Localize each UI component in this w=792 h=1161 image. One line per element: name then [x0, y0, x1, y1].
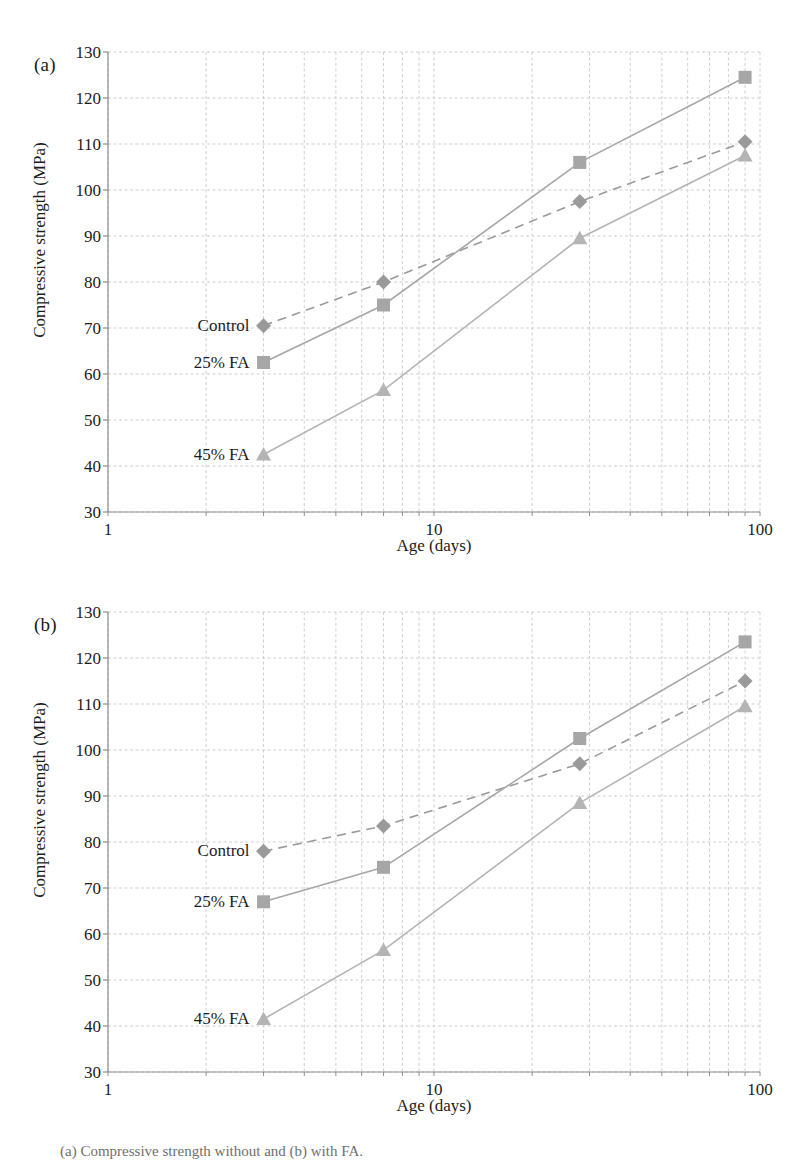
data-point-marker-square — [573, 732, 586, 745]
data-point-marker-triangle — [376, 383, 391, 397]
data-point-marker-diamond — [376, 275, 391, 290]
y-axis-tick-label: 110 — [76, 696, 101, 713]
y-axis-tick-label: 100 — [76, 742, 102, 759]
y-axis-tick-label: 70 — [84, 880, 101, 897]
y-axis-tick-label: 100 — [76, 182, 102, 199]
y-axis-tick-label: 80 — [84, 274, 101, 291]
data-point-marker-square — [573, 156, 586, 169]
plot-area-b: 30405060708090100110120130110100Control2… — [108, 612, 760, 1072]
y-axis-tick-label: 130 — [76, 44, 102, 61]
y-axis-tick-label: 40 — [84, 458, 101, 475]
y-axis-tick-label: 30 — [84, 1064, 101, 1081]
data-point-marker-square — [739, 635, 752, 648]
data-point-marker-triangle — [256, 1012, 271, 1026]
data-point-marker-diamond — [376, 818, 391, 833]
data-point-marker-square — [377, 299, 390, 312]
data-point-marker-triangle — [376, 943, 391, 957]
data-point-marker-square — [257, 356, 270, 369]
y-axis-tick-label: 90 — [84, 228, 101, 245]
series-annotation-label: 45% FA — [194, 1009, 250, 1029]
data-point-marker-triangle — [738, 699, 753, 713]
data-point-marker-diamond — [256, 318, 271, 333]
data-point-marker-diamond — [572, 194, 587, 209]
y-axis-tick-label: 60 — [84, 926, 101, 943]
series-annotation-label: 45% FA — [194, 445, 250, 465]
data-point-marker-square — [377, 861, 390, 874]
y-axis-label-a: Compressive strength (MPa) — [30, 90, 50, 390]
panel-tag-a: (a) — [34, 54, 56, 76]
y-axis-tick-label: 80 — [84, 834, 101, 851]
data-point-marker-diamond — [572, 756, 587, 771]
y-axis-tick-label: 60 — [84, 366, 101, 383]
x-axis-label-a: Age (days) — [108, 536, 760, 556]
y-axis-tick-label: 120 — [76, 650, 102, 667]
chart-svg-a — [108, 52, 760, 512]
y-axis-tick-label: 40 — [84, 1018, 101, 1035]
y-axis-tick-label: 90 — [84, 788, 101, 805]
y-axis-tick-label: 120 — [76, 90, 102, 107]
y-axis-tick-label: 50 — [84, 972, 101, 989]
data-point-marker-diamond — [256, 844, 271, 859]
figure-compressive-strength: (a) Compressive strength (MPa) 304050607… — [0, 0, 792, 1161]
series-annotation-label: Control — [198, 841, 250, 861]
series-annotation-label: 25% FA — [194, 892, 250, 912]
series-annotation-label: 25% FA — [194, 353, 250, 373]
chart-panel-b: (b) Compressive strength (MPa) 304050607… — [0, 578, 792, 1138]
chart-panel-a: (a) Compressive strength (MPa) 304050607… — [0, 18, 792, 578]
y-axis-tick-label: 130 — [76, 604, 102, 621]
figure-caption: (a) Compressive strength without and (b)… — [60, 1142, 760, 1159]
data-point-marker-triangle — [572, 795, 587, 809]
y-axis-tick-label: 50 — [84, 412, 101, 429]
data-point-marker-triangle — [572, 231, 587, 245]
y-axis-label-b: Compressive strength (MPa) — [30, 650, 50, 950]
data-point-marker-triangle — [256, 447, 271, 461]
data-point-marker-triangle — [738, 148, 753, 162]
series-annotation-label: Control — [198, 316, 250, 336]
gridlines-a — [108, 52, 760, 512]
x-axis-label-b: Age (days) — [108, 1096, 760, 1116]
data-point-marker-square — [257, 895, 270, 908]
data-point-marker-square — [739, 71, 752, 84]
plot-area-a: 30405060708090100110120130110100Control2… — [108, 52, 760, 512]
y-axis-tick-label: 70 — [84, 320, 101, 337]
panel-tag-b: (b) — [34, 614, 57, 636]
y-axis-tick-label: 30 — [84, 504, 101, 521]
data-point-marker-diamond — [738, 134, 753, 149]
data-point-marker-diamond — [738, 674, 753, 689]
y-axis-tick-label: 110 — [76, 136, 101, 153]
